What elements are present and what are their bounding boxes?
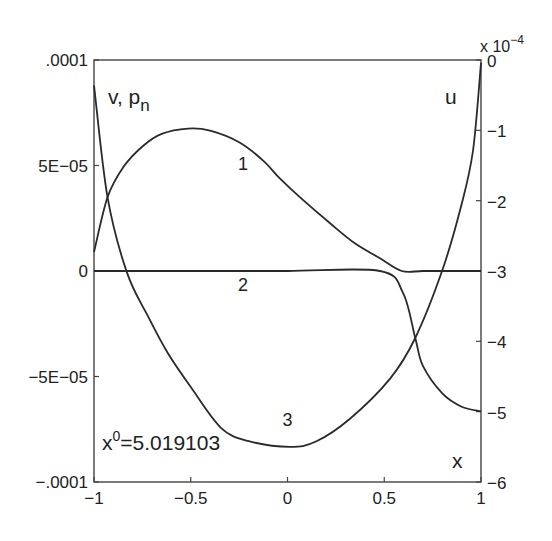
curve-label-3: 3 — [282, 410, 292, 430]
left-axis-ticks: .00015E−050−5E−05−.0001 — [28, 51, 99, 492]
right-axis-title: u — [445, 85, 457, 108]
x-tick-label: 0.5 — [372, 489, 396, 508]
curve-2 — [94, 269, 481, 411]
right-tick-label: −5 — [487, 404, 506, 423]
annotation-x0: x0=5.019103 — [102, 428, 220, 454]
left-tick-label: .0001 — [45, 51, 88, 70]
x-tick-label: −0.5 — [174, 489, 208, 508]
curve-labels: 123 — [238, 154, 293, 430]
right-tick-label: −2 — [487, 193, 506, 212]
curve-label-1: 1 — [238, 154, 248, 174]
plot-area: −1−0.500.51 .00015E−050−5E−05−.0001 0−1−… — [28, 51, 506, 508]
right-axis-multiplier: x 10−4 — [480, 33, 524, 55]
right-tick-label: −1 — [487, 122, 506, 141]
curves — [94, 63, 481, 447]
x-tick-label: 1 — [476, 489, 485, 508]
x-tick-label: 0 — [283, 489, 292, 508]
right-tick-label: −3 — [487, 263, 506, 282]
chart: −1−0.500.51 .00015E−050−5E−05−.0001 0−1−… — [0, 0, 552, 541]
left-tick-label: 5E−05 — [38, 157, 88, 176]
curve-label-2: 2 — [238, 275, 248, 295]
left-tick-label: −.0001 — [36, 473, 88, 492]
left-tick-label: −5E−05 — [28, 368, 88, 387]
curve-3 — [94, 63, 481, 447]
right-tick-label: −6 — [487, 474, 506, 493]
right-tick-label: −4 — [487, 333, 506, 352]
curve-1 — [94, 128, 481, 272]
x-axis-title: x — [452, 449, 463, 472]
left-tick-label: 0 — [79, 262, 88, 281]
left-axis-title: v, pn — [108, 85, 150, 115]
